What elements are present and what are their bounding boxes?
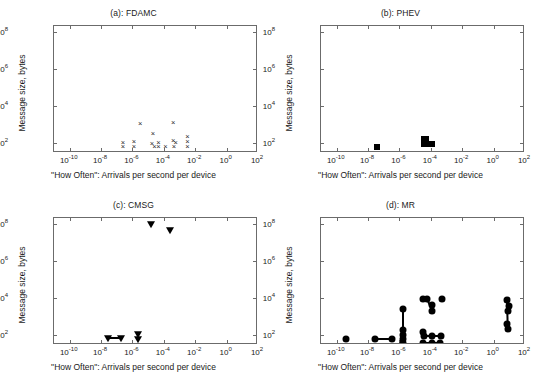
- y-tick-1: [54, 106, 57, 107]
- x-tick-5: [494, 340, 495, 343]
- y-tick-label-0: 102: [0, 329, 8, 340]
- x-tick-label-1: 10-8: [93, 154, 107, 165]
- data-point-c-4: [147, 222, 155, 229]
- y-tick-label-2: 106: [0, 63, 8, 74]
- x-tick-5: [227, 340, 228, 343]
- y-tick-label-3: 108: [263, 218, 275, 229]
- y-tick-right-2: [520, 69, 523, 70]
- y-tick-3: [321, 32, 324, 33]
- x-tick-top-0: [70, 26, 71, 29]
- y-tick-0: [54, 335, 57, 336]
- x-tick-label-6: 102: [518, 154, 530, 165]
- plot-area-c: [53, 217, 257, 344]
- y-tick-0: [54, 143, 57, 144]
- x-tick-top-5: [494, 26, 495, 29]
- data-point-d-18: [428, 339, 435, 344]
- chart-panel-d: (d): MR10-1010-810-610-410-2100102102104…: [267, 192, 534, 384]
- y-tick-label-2: 106: [263, 255, 275, 266]
- y-tick-right-3: [253, 224, 256, 225]
- y-tick-3: [54, 224, 57, 225]
- data-point-d-19: [437, 339, 444, 344]
- data-point-d-7: [400, 340, 407, 344]
- chart-panel-a: (a): FDAMC××××××××××××××××××10-1010-810-…: [0, 0, 267, 192]
- y-tick-right-1: [253, 106, 256, 107]
- y-tick-label-1: 104: [263, 100, 275, 111]
- x-tick-label-1: 10-8: [360, 346, 374, 357]
- x-tick-top-0: [70, 218, 71, 221]
- x-tick-0: [337, 148, 338, 151]
- x-tick-label-6: 102: [518, 346, 530, 357]
- data-point-d-12: [438, 295, 445, 302]
- y-tick-3: [54, 32, 57, 33]
- x-axis-title-b: "How Often": Arrivals per second per dev…: [267, 170, 534, 180]
- data-point-a-17: ×: [185, 143, 189, 151]
- y-tick-2: [321, 69, 324, 70]
- chart-panel-b: (b): PHEV10-1010-810-610-410-21001021021…: [267, 0, 534, 192]
- y-tick-label-1: 104: [0, 292, 8, 303]
- x-tick-top-1: [101, 218, 102, 221]
- x-tick-0: [337, 340, 338, 343]
- x-tick-3: [431, 148, 432, 151]
- y-tick-right-1: [520, 298, 523, 299]
- y-tick-2: [54, 69, 57, 70]
- y-tick-right-2: [253, 261, 256, 262]
- x-tick-label-0: 10-10: [327, 346, 345, 357]
- x-tick-label-6: 102: [251, 346, 263, 357]
- x-tick-label-4: 10-2: [187, 154, 201, 165]
- data-point-a-1: ×: [121, 143, 125, 151]
- y-tick-right-1: [520, 106, 523, 107]
- x-tick-4: [462, 148, 463, 151]
- data-point-d-24: [504, 326, 511, 333]
- y-tick-right-0: [520, 335, 523, 336]
- data-point-a-14: ×: [172, 143, 176, 151]
- x-tick-label-2: 10-6: [124, 154, 138, 165]
- y-tick-right-2: [520, 261, 523, 262]
- x-tick-top-4: [195, 218, 196, 221]
- data-point-d-0: [343, 335, 350, 342]
- x-tick-5: [227, 148, 228, 151]
- y-axis-title-b: Message size, bytes: [284, 29, 294, 157]
- x-tick-top-5: [227, 218, 228, 221]
- y-tick-right-3: [520, 224, 523, 225]
- x-tick-label-4: 10-2: [187, 346, 201, 357]
- x-tick-top-3: [431, 26, 432, 29]
- x-tick-top-5: [227, 26, 228, 29]
- data-point-a-5: ×: [151, 130, 155, 138]
- x-tick-label-5: 100: [219, 154, 231, 165]
- y-tick-right-3: [520, 32, 523, 33]
- x-tick-1: [368, 340, 369, 343]
- y-tick-label-3: 108: [0, 218, 8, 229]
- x-tick-top-3: [164, 26, 165, 29]
- y-axis-title-c: Message size, bytes: [17, 221, 27, 349]
- x-tick-label-0: 10-10: [327, 154, 345, 165]
- plot-area-a: ××××××××××××××××××: [53, 25, 257, 152]
- x-tick-2: [399, 148, 400, 151]
- x-tick-label-1: 10-8: [93, 346, 107, 357]
- x-tick-top-1: [368, 218, 369, 221]
- x-tick-label-1: 10-8: [360, 154, 374, 165]
- y-tick-0: [321, 335, 324, 336]
- x-tick-top-2: [399, 218, 400, 221]
- x-tick-label-0: 10-10: [60, 154, 78, 165]
- data-point-d-22: [504, 307, 511, 314]
- x-tick-label-6: 102: [251, 154, 263, 165]
- data-point-c-5: [166, 227, 174, 234]
- data-point-a-9: ×: [156, 143, 160, 151]
- x-tick-top-4: [462, 26, 463, 29]
- panel-title-a: (a): FDAMC: [0, 8, 267, 18]
- x-tick-label-2: 10-6: [391, 346, 405, 357]
- x-tick-top-2: [132, 218, 133, 221]
- x-tick-label-2: 10-6: [391, 154, 405, 165]
- data-point-a-10: ×: [163, 143, 167, 151]
- data-point-c-1: [117, 335, 125, 342]
- plot-area-b: [320, 25, 524, 152]
- x-tick-top-4: [462, 218, 463, 221]
- data-point-d-11: [429, 307, 436, 314]
- y-axis-title-a: Message size, bytes: [17, 29, 27, 157]
- x-axis-title-c: "How Often": Arrivals per second per dev…: [0, 362, 267, 372]
- data-point-b-0: [374, 144, 380, 150]
- y-tick-label-1: 104: [0, 100, 8, 111]
- x-tick-4: [462, 340, 463, 343]
- x-tick-label-3: 10-4: [156, 154, 170, 165]
- data-point-d-3: [400, 306, 407, 313]
